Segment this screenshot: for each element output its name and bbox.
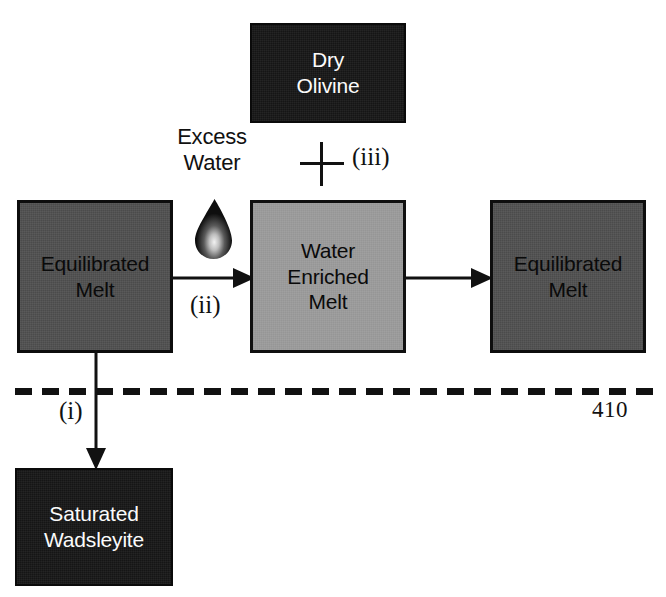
- label-step-i: (i): [59, 396, 83, 426]
- diagram-canvas: Dry Olivine Excess Water (iii) Equilibra…: [0, 0, 666, 597]
- box-water-enriched-melt: Water Enriched Melt: [250, 200, 406, 353]
- label-excess-water-line2: Water: [184, 150, 241, 175]
- label-step-ii: (ii): [190, 290, 221, 320]
- box-dry-olivine-line2: Olivine: [297, 73, 360, 99]
- box-equilibrated-melt-left-line2: Melt: [76, 277, 115, 303]
- plus-icon: [300, 142, 344, 186]
- box-equilibrated-melt-right-line1: Equilibrated: [514, 251, 623, 277]
- box-saturated-wadsleyite-line2: Wadsleyite: [44, 527, 144, 553]
- box-water-enriched-melt-line3: Melt: [309, 289, 348, 315]
- box-equilibrated-melt-right-line2: Melt: [549, 277, 588, 303]
- box-water-enriched-melt-line2: Enriched: [287, 264, 368, 290]
- label-excess-water-line1: Excess: [177, 124, 247, 149]
- box-dry-olivine-line1: Dry: [312, 47, 344, 73]
- dashed-depth-line: [15, 388, 656, 395]
- box-dry-olivine: Dry Olivine: [250, 23, 406, 123]
- water-droplet-icon: [193, 198, 233, 260]
- label-excess-water: Excess Water: [152, 124, 272, 176]
- label-step-iii: (iii): [352, 142, 390, 172]
- box-saturated-wadsleyite: Saturated Wadsleyite: [15, 468, 173, 586]
- label-depth-410: 410: [592, 396, 628, 423]
- box-equilibrated-melt-right: Equilibrated Melt: [490, 200, 646, 353]
- arrow-right-icon-middle-to-right: [403, 262, 493, 294]
- box-water-enriched-melt-line1: Water: [301, 238, 355, 264]
- box-equilibrated-melt-left-line1: Equilibrated: [41, 251, 150, 277]
- arrow-down-icon-to-wadsleyite: [80, 350, 112, 470]
- box-saturated-wadsleyite-line1: Saturated: [49, 501, 138, 527]
- box-equilibrated-melt-left: Equilibrated Melt: [17, 200, 173, 353]
